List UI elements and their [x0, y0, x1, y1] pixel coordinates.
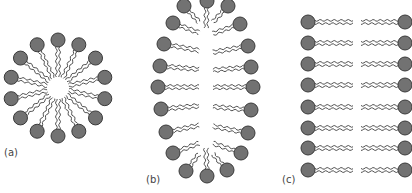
panel-b-elongated-micelle — [151, 0, 260, 183]
lipid-head — [246, 80, 260, 94]
lipid-head — [89, 51, 103, 65]
lipid-tail — [315, 149, 353, 151]
lipid-tail — [361, 65, 398, 67]
lipid-tail — [204, 148, 206, 169]
lipid-tail — [361, 44, 398, 46]
lipid-tail — [213, 124, 241, 130]
lipid-tail — [315, 105, 353, 107]
lipid-tail — [315, 108, 353, 110]
lipid-tail — [361, 126, 398, 128]
lipid-tail — [211, 9, 221, 20]
lipid-head — [398, 57, 412, 71]
lipid-head — [398, 100, 412, 114]
panel-a-spherical-micelle — [4, 33, 112, 143]
lipid-tail — [63, 52, 77, 79]
lipid-tail — [59, 99, 61, 129]
lipid-head — [244, 60, 258, 74]
lipid-head — [179, 164, 193, 178]
lipid-head — [153, 59, 167, 73]
lipid-tail — [315, 62, 353, 64]
lipid-tail — [315, 65, 353, 67]
lipid-tail — [69, 88, 98, 95]
lipid-tail — [315, 83, 353, 85]
lipid-head — [177, 0, 191, 13]
lipid-head — [398, 15, 412, 29]
lipid-tail — [315, 146, 353, 148]
panel-b-label: (b) — [146, 174, 160, 185]
lipid-head — [398, 78, 412, 92]
lipid-head — [151, 80, 165, 94]
lipid-tail — [361, 168, 398, 170]
lipid-head — [98, 92, 112, 106]
lipid-tail — [170, 47, 198, 53]
lipid-head — [301, 78, 315, 92]
lipid-tail — [25, 94, 49, 112]
lipid-head — [89, 111, 103, 125]
lipid-head — [301, 141, 315, 155]
lipid-head — [200, 0, 214, 8]
lipid-tail — [39, 98, 53, 125]
lipid-tail — [214, 141, 236, 148]
lipid-head — [233, 17, 247, 31]
lipid-head — [221, 0, 235, 13]
lipid-tail — [204, 8, 206, 28]
lipid-tail — [187, 13, 197, 24]
lipid-tail — [17, 80, 46, 87]
lipid-tail — [168, 107, 199, 111]
panel-c-label: (c) — [282, 174, 295, 185]
panel-c-bilayer — [301, 15, 412, 177]
lipid-head — [241, 126, 255, 140]
lipid-head — [72, 38, 86, 52]
lipid-tail — [315, 41, 353, 43]
lipid-head — [159, 125, 173, 139]
lipid-tail — [165, 88, 199, 90]
lipid-tail — [59, 47, 61, 77]
lipid-tail — [361, 146, 398, 148]
lipid-tail — [165, 85, 199, 87]
lipid-tail — [27, 61, 50, 80]
lipid-tail — [207, 8, 209, 28]
lipid-tail — [213, 68, 244, 72]
lipid-tail — [192, 156, 201, 167]
lipid-head — [51, 129, 65, 143]
lipid-tail — [66, 95, 89, 114]
lipid-head — [157, 37, 171, 51]
lipid-tail — [213, 65, 244, 69]
lipid-head — [398, 163, 412, 177]
lipid-tail — [315, 126, 353, 128]
lipid-tail — [56, 99, 58, 129]
lipid-tail — [361, 105, 398, 107]
lipid-head — [301, 57, 315, 71]
lipid-head — [220, 163, 234, 177]
lipid-head — [51, 33, 65, 47]
lipid-tail — [361, 86, 398, 88]
lipid-tail — [213, 85, 246, 87]
lipid-tail — [56, 47, 58, 77]
lipid-head — [301, 100, 315, 114]
lipid-tail — [315, 20, 353, 22]
lipid-tail — [179, 27, 198, 35]
lipid-tail — [315, 86, 353, 88]
lipid-head — [4, 92, 18, 106]
lipid-tail — [213, 104, 244, 108]
lipid-head — [398, 36, 412, 50]
lipid-head — [13, 111, 27, 125]
lipid-head — [241, 39, 255, 53]
lipid-head — [301, 15, 315, 29]
lipid-head — [244, 103, 258, 117]
lipid-head — [398, 121, 412, 135]
lipid-tail — [168, 104, 199, 108]
lipid-tail — [361, 108, 398, 110]
lipid-head — [72, 124, 86, 138]
lipid-head — [301, 36, 315, 50]
lipid-tail — [361, 41, 398, 43]
lipid-tail — [67, 64, 91, 82]
lipid-tail — [207, 148, 209, 169]
lipid-tail — [315, 168, 353, 170]
lipid-tail — [167, 68, 199, 72]
lipid-head — [13, 51, 27, 65]
lipid-head — [98, 70, 112, 84]
lipid-tail — [361, 171, 398, 173]
panel-a-label: (a) — [4, 147, 18, 158]
lipid-tail — [167, 65, 199, 69]
